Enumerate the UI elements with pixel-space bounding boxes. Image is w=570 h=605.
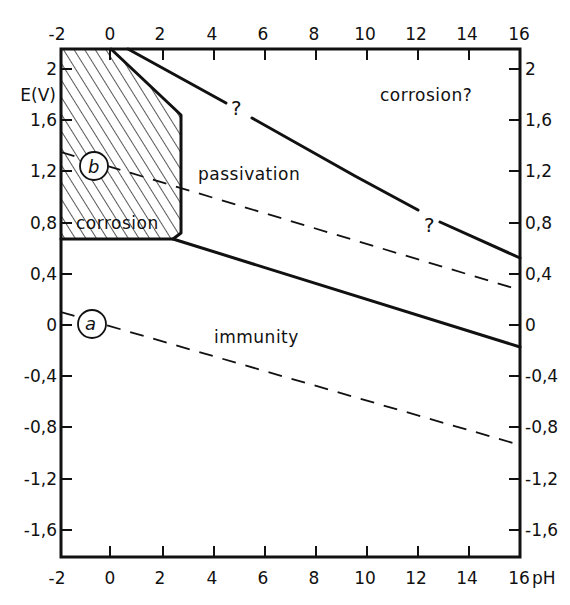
svg-text:2: 2	[525, 59, 536, 79]
svg-text:14: 14	[456, 568, 478, 588]
svg-text:-1,6: -1,6	[24, 520, 57, 540]
svg-text:6: 6	[258, 24, 269, 44]
svg-text:0: 0	[525, 315, 536, 335]
svg-text:1,6: 1,6	[525, 110, 552, 130]
svg-text:8: 8	[309, 568, 320, 588]
svg-text:6: 6	[258, 568, 269, 588]
question-mark-1: ?	[231, 96, 242, 120]
svg-text:0,8: 0,8	[525, 213, 552, 233]
svg-text:2: 2	[46, 59, 57, 79]
region-label-corrosion-question: corrosion?	[380, 85, 472, 105]
svg-text:0,4: 0,4	[525, 264, 552, 284]
y-axis-title: E(V)	[20, 85, 56, 105]
svg-text:2: 2	[155, 568, 166, 588]
svg-text:-2: -2	[49, 568, 66, 588]
x-axis-bottom-labels: -2 0 2 4 6 8 10 12 14 16	[49, 568, 530, 588]
region-label-passivation: passivation	[198, 164, 300, 184]
svg-text:1,6: 1,6	[30, 110, 57, 130]
svg-text:4: 4	[207, 24, 218, 44]
question-mark-2: ?	[424, 213, 435, 237]
svg-text:0,8: 0,8	[30, 213, 57, 233]
y-axis-right-labels: 2 1,6 1,2 0,8 0,4 0 -0,4 -0,8 -1,2 -1,6	[525, 59, 558, 540]
y-axis-left-labels: 2 1,6 1,2 0,8 0,4 0 -0,4 -0,8 -1,2 -1,6	[24, 59, 57, 540]
region-label-immunity: immunity	[214, 327, 299, 347]
svg-text:0,4: 0,4	[30, 264, 57, 284]
svg-text:-0,4: -0,4	[24, 366, 57, 386]
svg-text:12: 12	[405, 568, 427, 588]
svg-text:0: 0	[105, 24, 116, 44]
svg-text:0: 0	[46, 315, 57, 335]
x-axis-top-labels: -2 0 2 4 6 8 10 12 14 16	[49, 24, 530, 44]
corrosion-region	[61, 49, 181, 239]
region-label-corrosion: corrosion	[76, 213, 159, 233]
svg-text:10: 10	[354, 24, 376, 44]
svg-text:10: 10	[354, 568, 376, 588]
svg-text:-0,8: -0,8	[525, 417, 558, 437]
svg-text:4: 4	[207, 568, 218, 588]
svg-text:14: 14	[456, 24, 478, 44]
pourbaix-diagram: ? ? a b corrosion passivation immunity c…	[0, 0, 570, 605]
svg-text:1,2: 1,2	[525, 161, 552, 181]
svg-text:-1,2: -1,2	[24, 469, 57, 489]
circle-a-label: a	[85, 313, 96, 334]
svg-text:16: 16	[508, 568, 530, 588]
svg-text:12: 12	[405, 24, 427, 44]
svg-text:-1,2: -1,2	[525, 469, 558, 489]
svg-text:-1,6: -1,6	[525, 520, 558, 540]
svg-text:8: 8	[309, 24, 320, 44]
svg-text:-0,4: -0,4	[525, 366, 558, 386]
upper-boundary-segment-3	[440, 222, 520, 258]
x-axis-title: pH	[532, 568, 556, 588]
circle-b-label: b	[88, 156, 99, 177]
svg-text:-0,8: -0,8	[24, 417, 57, 437]
svg-text:1,2: 1,2	[30, 161, 57, 181]
svg-text:2: 2	[155, 24, 166, 44]
svg-text:16: 16	[508, 24, 530, 44]
svg-text:-2: -2	[49, 24, 66, 44]
svg-text:0: 0	[105, 568, 116, 588]
